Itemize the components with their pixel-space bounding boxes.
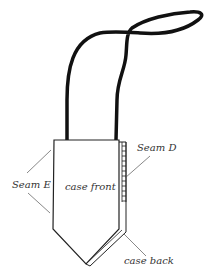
case-back-leader: [124, 234, 146, 256]
seam-d-leader: [125, 156, 150, 178]
strap-cord: [67, 12, 202, 140]
case-diagram: Seam D Seam E case front case back: [0, 0, 208, 272]
seam-e-label: Seam E: [12, 179, 51, 190]
seam-d-label: Seam D: [137, 142, 176, 153]
seam-e-leader-lower: [28, 193, 50, 213]
seam-e-leader-upper: [27, 150, 51, 173]
case-back-label: case back: [124, 255, 174, 266]
case-front-label: case front: [65, 181, 117, 192]
